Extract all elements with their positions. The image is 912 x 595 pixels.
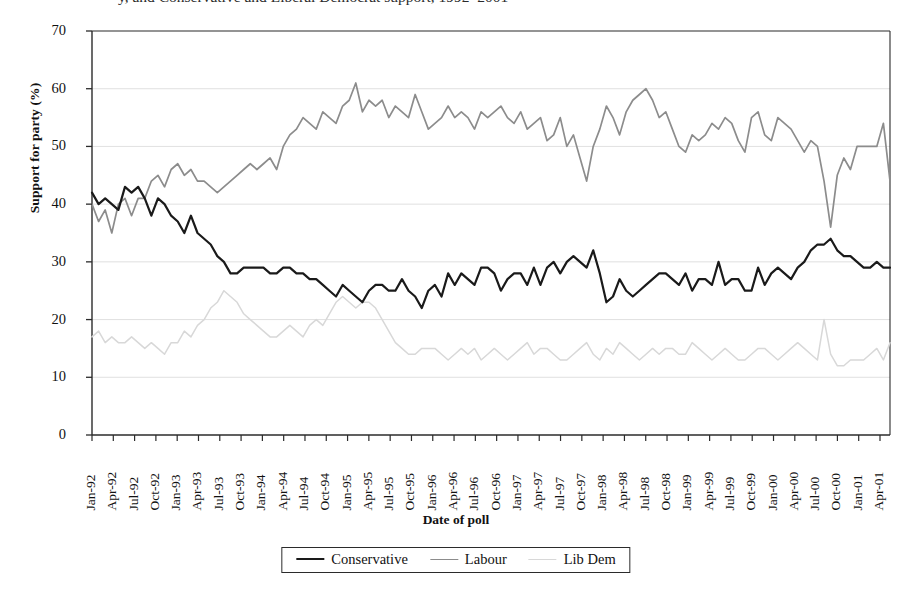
x-tick-label: Oct-95 — [403, 440, 417, 510]
series-canvas — [92, 31, 890, 435]
x-tick-label: Oct-92 — [147, 440, 161, 510]
legend-line-swatch — [529, 559, 557, 560]
x-tick-label: Apr-93 — [190, 440, 204, 510]
x-tick-label: Jul-98 — [637, 440, 651, 510]
x-tick-label: Apr-96 — [446, 440, 460, 510]
x-tick-label: Apr-98 — [616, 440, 630, 510]
y-axis-tick-labels: 010203040506070 — [26, 0, 66, 595]
legend-label: Conservative — [331, 552, 408, 567]
x-tick-label: Apr-00 — [786, 440, 800, 510]
y-tick-label: 40 — [26, 196, 66, 211]
x-tick-label: Oct-97 — [573, 440, 587, 510]
x-tick-label: Apr-95 — [360, 440, 374, 510]
y-tick-label: 20 — [26, 312, 66, 327]
x-tick-label: Oct-93 — [233, 440, 247, 510]
x-tick-label: Oct-98 — [659, 440, 673, 510]
x-tick-label: Jan-01 — [850, 440, 864, 510]
x-tick-label: Jan-93 — [169, 440, 183, 510]
x-tick-label: Oct-96 — [488, 440, 502, 510]
cropped-caption: y, and Conservative and Liberal Democrat… — [0, 0, 912, 16]
x-tick-label: Apr-92 — [105, 440, 119, 510]
legend-label: Lib Dem — [564, 552, 616, 567]
poll-support-line-chart: y, and Conservative and Liberal Democrat… — [0, 0, 912, 595]
plot-area — [92, 31, 890, 435]
x-tick-label: Jul-93 — [211, 440, 225, 510]
y-tick-label: 0 — [26, 427, 66, 442]
legend-line-swatch — [430, 559, 458, 560]
x-tick-label: Apr-99 — [701, 440, 715, 510]
x-tick-label: Jan-94 — [254, 440, 268, 510]
y-tick-label: 70 — [26, 23, 66, 38]
legend-label: Labour — [465, 552, 507, 567]
series-line-lib-dem — [92, 291, 890, 366]
x-tick-label: Jan-96 — [424, 440, 438, 510]
x-tick-label: Oct-99 — [744, 440, 758, 510]
x-tick-label: Jan-97 — [509, 440, 523, 510]
x-tick-label: Jul-00 — [808, 440, 822, 510]
legend-entry[interactable]: Lib Dem — [529, 552, 616, 567]
x-tick-label: Jan-00 — [765, 440, 779, 510]
y-tick-label: 60 — [26, 81, 66, 96]
y-tick-label: 50 — [26, 138, 66, 153]
y-tick-label: 30 — [26, 254, 66, 269]
x-tick-label: Apr-94 — [275, 440, 289, 510]
x-tick-label: Apr-01 — [872, 440, 886, 510]
x-tick-label: Apr-97 — [531, 440, 545, 510]
x-tick-label: Jul-96 — [467, 440, 481, 510]
x-tick-label: Jul-94 — [296, 440, 310, 510]
legend-line-swatch — [296, 558, 324, 560]
x-axis-tick-labels: Jan-92Apr-92Jul-92Oct-92Jan-93Apr-93Jul-… — [92, 440, 890, 510]
x-tick-label: Jan-92 — [84, 440, 98, 510]
legend-entry[interactable]: Conservative — [296, 552, 408, 567]
x-tick-label: Jul-97 — [552, 440, 566, 510]
x-tick-label: Jan-95 — [339, 440, 353, 510]
x-tick-label: Oct-00 — [829, 440, 843, 510]
x-tick-label: Jul-99 — [722, 440, 736, 510]
series-line-conservative — [92, 187, 890, 308]
y-tick-label: 10 — [26, 369, 66, 384]
x-tick-label: Jul-95 — [382, 440, 396, 510]
chart-legend: ConservativeLabourLib Dem — [281, 547, 630, 573]
x-tick-label: Oct-94 — [318, 440, 332, 510]
x-tick-label: Jan-99 — [680, 440, 694, 510]
x-axis-title: Date of poll — [0, 512, 912, 528]
series-line-labour — [92, 83, 890, 233]
x-tick-label: Jan-98 — [595, 440, 609, 510]
legend-entry[interactable]: Labour — [430, 552, 507, 567]
x-tick-label: Jul-92 — [126, 440, 140, 510]
cropped-caption-text: y, and Conservative and Liberal Democrat… — [118, 0, 508, 6]
